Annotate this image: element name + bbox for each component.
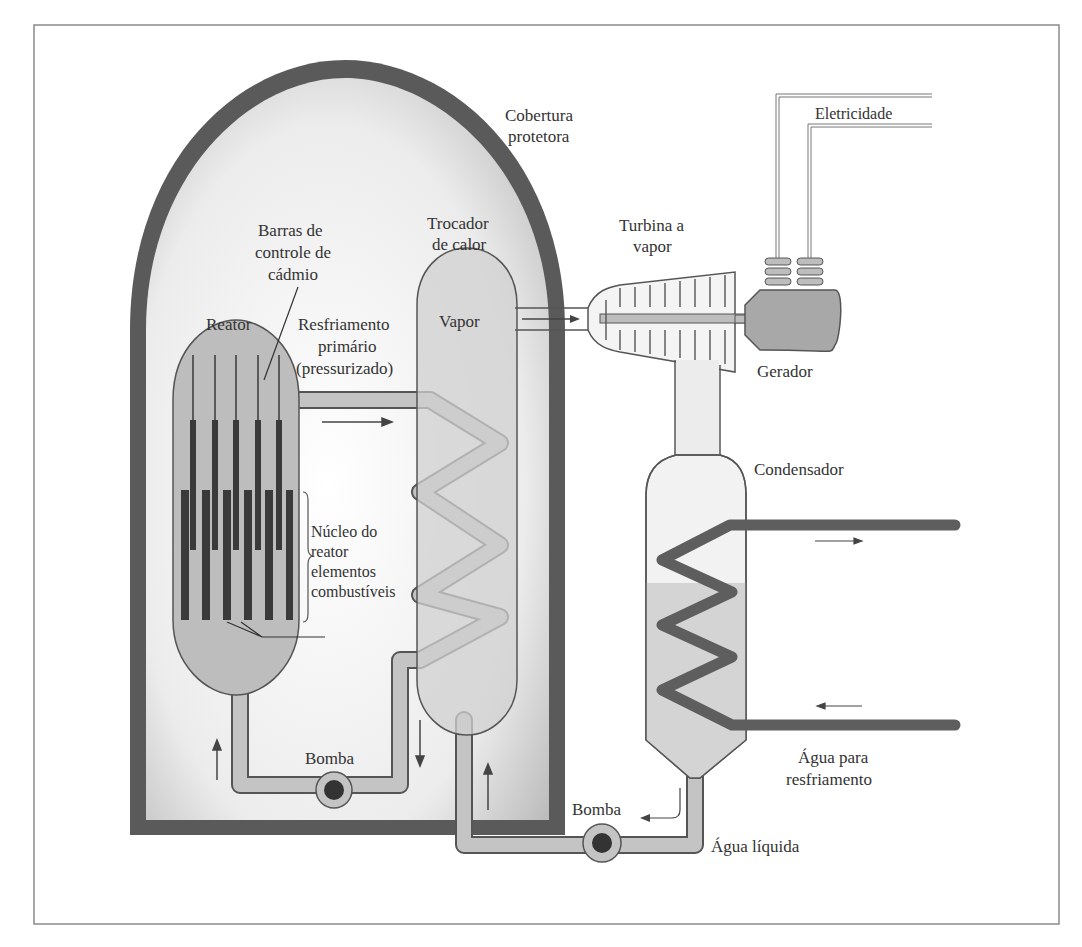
primary-pump xyxy=(316,772,352,808)
exhaust-duct-fill xyxy=(676,360,719,455)
label-liquid-water: Água líquida xyxy=(711,837,800,856)
label-condenser: Condensador xyxy=(754,460,844,479)
label-steam: Vapor xyxy=(439,312,480,331)
label-electricity: Eletricidade xyxy=(815,105,892,122)
secondary-pump xyxy=(583,824,621,862)
nuclear-plant-diagram: Coberturaprotetora Eletricidade Trocador… xyxy=(0,0,1082,947)
label-pump-secondary: Bomba xyxy=(572,800,622,819)
label-generator: Gerador xyxy=(757,362,813,381)
label-reactor: Reator xyxy=(206,315,252,334)
label-pump-primary: Bomba xyxy=(305,749,355,768)
